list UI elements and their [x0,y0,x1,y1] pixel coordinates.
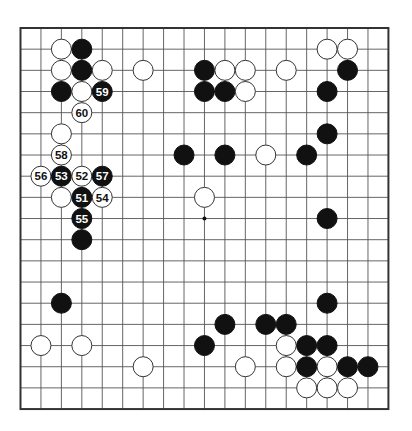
star-point [202,217,206,221]
black-stone [317,82,337,102]
white-stone [133,60,153,80]
black-stone [72,230,92,250]
white-stone [92,60,112,80]
black-stone-disc [194,336,214,356]
white-stone-disc [235,82,255,102]
white-stone [317,39,337,59]
white-stone [215,60,235,80]
black-stone [338,60,358,80]
white-stone-disc [215,60,235,80]
black-stone-disc [317,209,337,229]
white-stone-disc [194,187,214,207]
move-number: 60 [75,107,88,119]
white-stone [31,336,51,356]
move-number: 57 [96,170,109,182]
black-stone-disc [338,60,358,80]
white-stone [338,39,358,59]
white-stone-disc [72,336,92,356]
white-stone [338,378,358,398]
black-stone-disc [194,60,214,80]
move-number: 58 [55,149,68,161]
white-stone-disc [133,60,153,80]
move-number: 55 [75,213,88,225]
white-stone [256,145,276,165]
white-stone-disc [338,39,358,59]
black-stone: 51 [72,187,92,207]
black-stone [72,39,92,59]
black-stone [215,314,235,334]
black-stone-disc [358,357,378,377]
black-stone [194,60,214,80]
move-number: 56 [35,170,48,182]
black-stone [338,357,358,377]
white-stone [276,60,296,80]
black-stone [317,209,337,229]
black-stone-disc [317,82,337,102]
black-stone-disc [72,60,92,80]
black-stone-disc [215,314,235,334]
white-stone [235,357,255,377]
white-stone-disc [51,60,71,80]
white-stone [72,336,92,356]
white-stone-disc [256,145,276,165]
white-stone [235,82,255,102]
black-stone [276,314,296,334]
white-stone-disc [51,124,71,144]
white-stone-disc [72,82,92,102]
white-stone-disc [51,187,71,207]
white-stone [317,357,337,377]
white-stone [72,82,92,102]
go-board: 59605856535257515455 [0,0,412,431]
white-stone-disc [317,357,337,377]
black-stone [297,145,317,165]
black-stone-disc [215,82,235,102]
black-stone-disc [72,39,92,59]
white-stone: 56 [31,166,51,186]
white-stone [51,39,71,59]
white-stone-disc [276,60,296,80]
white-stone [235,60,255,80]
black-stone-disc [317,124,337,144]
black-stone [51,82,71,102]
white-stone-disc [235,60,255,80]
white-stone: 60 [72,103,92,123]
black-stone-disc [317,336,337,356]
white-stone: 58 [51,145,71,165]
black-stone-disc [297,357,317,377]
white-stone [51,60,71,80]
white-stone [51,124,71,144]
white-stone [194,187,214,207]
black-stone-disc [194,82,214,102]
black-stone-disc [338,357,358,377]
black-stone-disc [276,314,296,334]
black-stone-disc [51,82,71,102]
black-stone-disc [297,336,317,356]
black-stone [297,357,317,377]
white-stone-disc [317,378,337,398]
black-stone-disc [174,145,194,165]
move-number: 52 [75,170,88,182]
white-stone-disc [92,60,112,80]
white-stone-disc [51,39,71,59]
black-stone-disc [215,145,235,165]
white-stone-disc [297,378,317,398]
black-stone: 55 [72,209,92,229]
black-stone [317,293,337,313]
black-stone [297,336,317,356]
black-stone [358,357,378,377]
white-stone-disc [276,336,296,356]
white-stone-disc [338,378,358,398]
white-stone-disc [276,357,296,377]
black-stone-disc [317,293,337,313]
black-stone [174,145,194,165]
white-stone [297,378,317,398]
black-stone [317,336,337,356]
black-stone [317,124,337,144]
white-stone-disc [31,336,51,356]
black-stone [51,293,71,313]
white-stone-disc [235,357,255,377]
black-stone-disc [72,230,92,250]
black-stone-disc [51,293,71,313]
black-stone [215,82,235,102]
black-stone-disc [256,314,276,334]
